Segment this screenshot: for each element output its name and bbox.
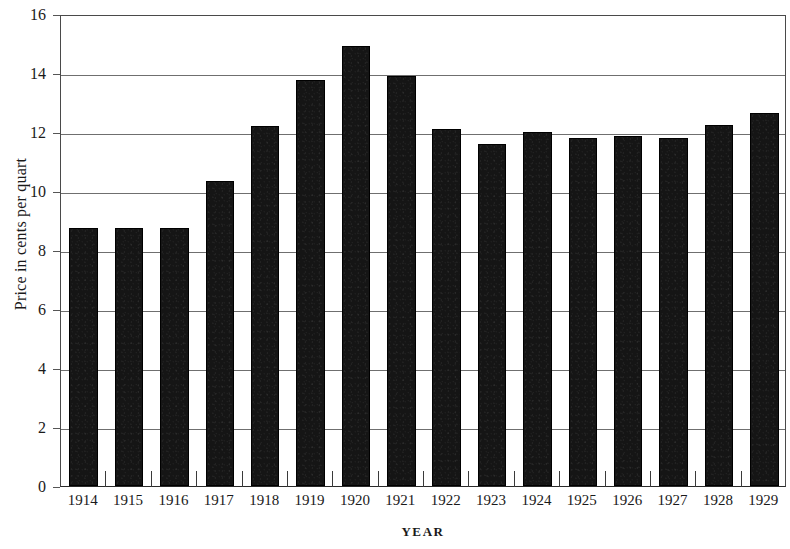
plot-area (60, 15, 786, 487)
x-axis-tick-mark (605, 471, 606, 487)
y-axis-tick-label: 16 (30, 6, 46, 24)
y-axis-tick-label: 4 (38, 360, 46, 378)
x-axis-tick-mark (695, 471, 696, 487)
y-axis-tick-label: 10 (30, 183, 46, 201)
y-axis-tick-mark (53, 192, 60, 193)
bar (432, 129, 461, 486)
x-axis-tick-label: 1915 (113, 492, 143, 509)
y-axis-tick-mark (53, 15, 60, 16)
bar (478, 144, 507, 486)
x-axis-tick-label: 1918 (249, 492, 279, 509)
x-axis-tick-mark (741, 471, 742, 487)
x-axis-tick-label: 1920 (340, 492, 370, 509)
x-axis-tick-mark (423, 471, 424, 487)
bar (296, 80, 325, 486)
x-axis-tick-label: 1929 (748, 492, 778, 509)
bar (251, 126, 280, 486)
x-axis-tick-mark (332, 471, 333, 487)
y-axis-tick-mark (53, 133, 60, 134)
x-axis-tick-labels: 1914191519161917191819191920192119221923… (60, 492, 786, 518)
x-axis-tick-label: 1924 (521, 492, 551, 509)
x-axis-tick-marks (60, 471, 786, 491)
y-axis-tick-label: 14 (30, 65, 46, 83)
y-axis-tick-label: 0 (38, 478, 46, 496)
bar (160, 228, 189, 486)
y-axis-tick-label: 8 (38, 242, 46, 260)
bar (569, 138, 598, 486)
x-axis-tick-mark (196, 471, 197, 487)
x-axis-tick-label: 1923 (476, 492, 506, 509)
x-axis-tick-label: 1916 (158, 492, 188, 509)
y-axis-tick-labels: 0246810121416 (0, 0, 56, 549)
x-axis-tick-mark (105, 471, 106, 487)
y-axis-tick-mark (53, 251, 60, 252)
x-axis-tick-mark (468, 471, 469, 487)
x-axis-tick-mark (151, 471, 152, 487)
bar (659, 138, 688, 486)
bar (206, 181, 235, 486)
x-axis-tick-label: 1927 (658, 492, 688, 509)
x-axis-tick-mark (559, 471, 560, 487)
y-axis-tick-label: 6 (38, 301, 46, 319)
y-axis-tick-mark (53, 487, 60, 488)
x-axis-tick-mark (242, 471, 243, 487)
bar-chart-figure: Price in cents per quart 0246810121416 1… (0, 0, 790, 549)
x-axis-tick-mark (378, 471, 379, 487)
y-axis-tick-mark (53, 428, 60, 429)
x-axis-tick-label: 1926 (612, 492, 642, 509)
y-axis-tick-mark (53, 74, 60, 75)
x-axis-title: YEAR (60, 524, 786, 540)
x-axis-tick-label: 1925 (567, 492, 597, 509)
x-axis-tick-mark (650, 471, 651, 487)
bar (342, 46, 371, 486)
bar (115, 228, 144, 486)
y-axis-tick-label: 2 (38, 419, 46, 437)
bar (69, 228, 98, 486)
bar (523, 132, 552, 486)
bar-series (61, 16, 785, 486)
x-axis-tick-mark (514, 471, 515, 487)
bar (750, 113, 779, 486)
y-axis-tick-mark (53, 310, 60, 311)
x-axis-tick-label: 1914 (68, 492, 98, 509)
y-axis-tick-mark (53, 369, 60, 370)
x-axis-tick-mark (287, 471, 288, 487)
x-axis-tick-label: 1917 (204, 492, 234, 509)
x-axis-tick-label: 1921 (385, 492, 415, 509)
bar (614, 136, 643, 486)
x-axis-tick-label: 1922 (431, 492, 461, 509)
x-axis-tick-label: 1919 (295, 492, 325, 509)
y-axis-tick-label: 12 (30, 124, 46, 142)
x-axis-tick-label: 1928 (703, 492, 733, 509)
bar (387, 76, 416, 486)
bar (705, 125, 734, 486)
